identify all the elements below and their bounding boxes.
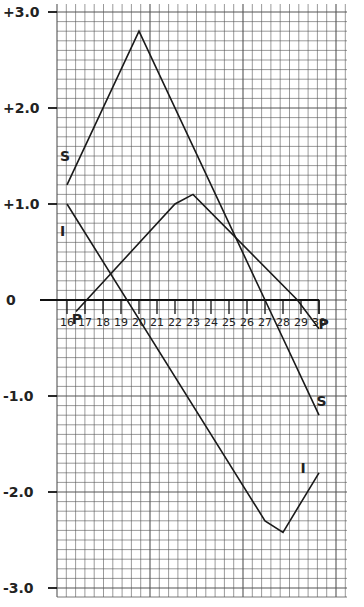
y-tick-label: -1.0 [3, 388, 34, 404]
x-tick-label: 24 [204, 316, 218, 329]
series-lines [67, 31, 319, 532]
x-tick-label: 18 [96, 316, 110, 329]
x-tick-label: 23 [186, 316, 200, 329]
series-label: S [317, 393, 327, 409]
y-tick-label: +1.0 [3, 196, 40, 212]
series-label: P [72, 311, 82, 327]
axes: +3.0+2.0+1.00-1.0-2.0-3.0161718192021222… [3, 4, 326, 596]
y-tick-label: -2.0 [3, 484, 34, 500]
series-label: S [60, 148, 70, 164]
x-tick-label: 19 [114, 316, 128, 329]
labels: SSIIPP [60, 148, 329, 476]
y-tick-label: +3.0 [3, 4, 40, 20]
series-label: I [60, 223, 65, 239]
x-tick-label: 29 [294, 316, 308, 329]
y-tick-label: -3.0 [3, 580, 34, 596]
series-label: P [318, 316, 328, 332]
y-tick-label: +2.0 [3, 100, 40, 116]
line-chart: +3.0+2.0+1.00-1.0-2.0-3.0161718192021222… [0, 0, 364, 607]
x-tick-label: 21 [150, 316, 164, 329]
series-label: I [300, 460, 305, 476]
x-tick-label: 25 [222, 316, 236, 329]
series-i-line [67, 204, 319, 532]
x-tick-label: 27 [258, 316, 272, 329]
x-tick-label: 22 [168, 316, 182, 329]
x-tick-label: 26 [240, 316, 254, 329]
y-tick-label: 0 [6, 292, 16, 308]
